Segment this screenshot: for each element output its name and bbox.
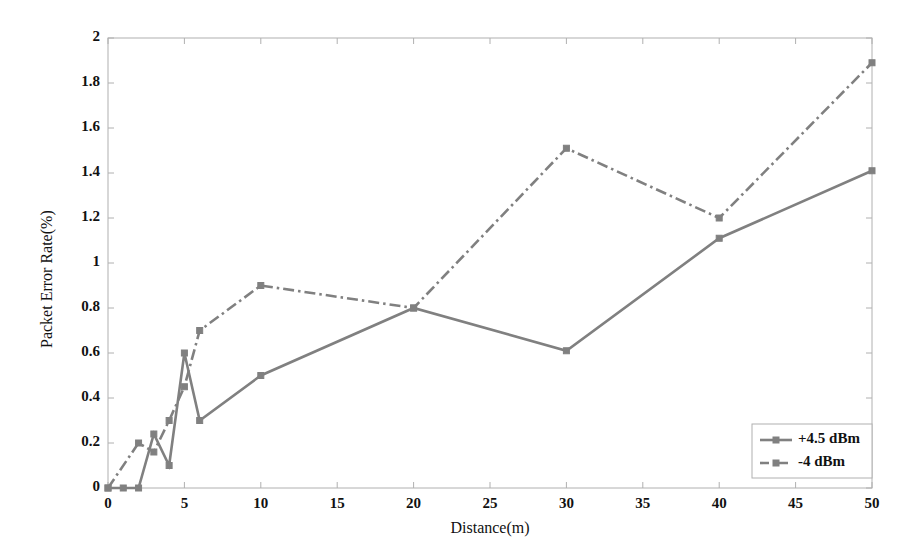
plot-canvas xyxy=(0,0,911,548)
series-marker xyxy=(869,60,875,66)
series-marker xyxy=(136,485,142,491)
series-marker xyxy=(197,418,203,424)
y-tick-label: 1.6 xyxy=(52,118,100,135)
y-tick-label: 0.2 xyxy=(52,433,100,450)
series-marker xyxy=(181,384,187,390)
series-marker xyxy=(716,215,722,221)
plot-border xyxy=(108,38,872,488)
x-tick-label: 15 xyxy=(312,495,362,512)
chart-figure: 00.20.40.60.811.21.41.61.82 051015202530… xyxy=(0,0,911,548)
series-marker xyxy=(136,440,142,446)
legend-label-1: -4 dBm xyxy=(798,453,845,470)
x-tick-label: 40 xyxy=(694,495,744,512)
axes-box xyxy=(108,38,872,488)
series-marker xyxy=(166,418,172,424)
series-marker xyxy=(105,485,111,491)
legend-marker-sample xyxy=(773,437,779,443)
x-tick-label: 10 xyxy=(236,495,286,512)
x-tick-label: 5 xyxy=(159,495,209,512)
x-axis-title: Distance(m) xyxy=(390,519,590,537)
series-marker xyxy=(869,168,875,174)
x-tick-label: 20 xyxy=(389,495,439,512)
x-tick-label: 30 xyxy=(541,495,591,512)
y-tick-label: 0.4 xyxy=(52,388,100,405)
series-marker xyxy=(258,373,264,379)
y-tick-label: 0 xyxy=(52,478,100,495)
series-marker xyxy=(166,463,172,469)
y-tick-label: 0.8 xyxy=(52,298,100,315)
axis-ticks xyxy=(108,38,872,488)
series-marker xyxy=(563,145,569,151)
series-marker xyxy=(120,485,126,491)
series-marker xyxy=(411,305,417,311)
x-tick-label: 25 xyxy=(465,495,515,512)
y-tick-label: 1.2 xyxy=(52,208,100,225)
series-marker xyxy=(151,431,157,437)
y-axis-title: Packet Error Rate(%) xyxy=(38,210,56,348)
x-tick-label: 50 xyxy=(847,495,897,512)
legend-label-0: +4.5 dBm xyxy=(798,430,860,447)
series-marker xyxy=(563,348,569,354)
x-tick-label: 45 xyxy=(771,495,821,512)
x-tick-label: 0 xyxy=(83,495,133,512)
series-marker xyxy=(258,283,264,289)
x-tick-label: 35 xyxy=(618,495,668,512)
y-tick-label: 2 xyxy=(52,28,100,45)
series-marker xyxy=(716,235,722,241)
y-tick-label: 1 xyxy=(52,253,100,270)
series-marker xyxy=(197,328,203,334)
y-tick-label: 1.4 xyxy=(52,163,100,180)
legend-marker-sample xyxy=(773,460,779,466)
y-tick-label: 1.8 xyxy=(52,73,100,90)
y-tick-label: 0.6 xyxy=(52,343,100,360)
series-marker xyxy=(181,350,187,356)
series-marker xyxy=(151,449,157,455)
